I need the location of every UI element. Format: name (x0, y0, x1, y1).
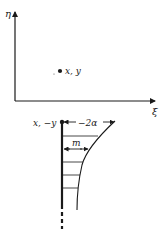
tick-mark (53, 73, 54, 74)
point-label: x, y (65, 66, 82, 76)
m-label: m (72, 138, 81, 148)
width-label: −2α (78, 118, 97, 128)
diagram-canvas: η ξ x, y x, −y −2α m (0, 0, 167, 244)
top-plot: η ξ x, y (5, 8, 158, 117)
bottom-plot: x, −y −2α m (33, 118, 115, 229)
boundary-curve (77, 121, 115, 210)
image-point-marker (60, 120, 64, 124)
image-point-label: x, −y (33, 118, 57, 128)
eta-axis-label: η (5, 8, 11, 19)
xi-axis-label: ξ (152, 106, 158, 117)
point-marker (58, 69, 62, 73)
